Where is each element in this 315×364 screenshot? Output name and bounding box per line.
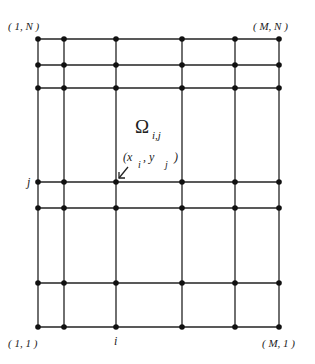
point-label-sub-i: i: [138, 159, 141, 170]
grid-node: [276, 36, 282, 42]
corner-label-top-right: ( M, N ): [253, 20, 288, 33]
point-label-x: (x: [123, 150, 133, 164]
grid-node: [35, 205, 41, 211]
grid-nodes: [35, 36, 282, 330]
grid-node: [35, 280, 41, 286]
grid-node: [35, 36, 41, 42]
grid-diagram: ( 1, N ) ( M, N ) ( 1, 1 ) ( M, 1 ) j i …: [0, 0, 315, 364]
grid-node: [276, 85, 282, 91]
grid-node: [113, 36, 119, 42]
point-label-close: ): [173, 150, 178, 164]
grid-node: [179, 62, 185, 68]
grid-node: [232, 324, 238, 330]
grid-node: [276, 62, 282, 68]
grid-node: [113, 280, 119, 286]
corner-label-bottom-right: ( M, 1 ): [262, 337, 295, 350]
grid-node: [113, 205, 119, 211]
grid-node: [61, 179, 67, 185]
grid-node: [276, 205, 282, 211]
grid-node: [61, 205, 67, 211]
grid-node: [276, 179, 282, 185]
grid-node: [232, 62, 238, 68]
row-label-j: j: [25, 175, 31, 189]
point-label-sub-j: j: [163, 159, 168, 170]
grid-node: [232, 36, 238, 42]
grid-node: [179, 179, 185, 185]
grid-lines: [38, 39, 279, 327]
grid-node: [61, 62, 67, 68]
grid-node: [232, 179, 238, 185]
grid-node: [61, 280, 67, 286]
grid-node: [232, 85, 238, 91]
grid-node: [113, 179, 119, 185]
grid-node: [113, 85, 119, 91]
point-label-y: , y: [143, 150, 155, 164]
grid-node: [35, 324, 41, 330]
pointer-arrow-icon: [119, 167, 128, 178]
grid-node: [61, 324, 67, 330]
grid-node: [61, 85, 67, 91]
grid-node: [179, 280, 185, 286]
grid-node: [179, 36, 185, 42]
grid-node: [35, 85, 41, 91]
column-label-i: i: [114, 334, 117, 348]
grid-node: [35, 62, 41, 68]
grid-node: [113, 324, 119, 330]
grid-node: [179, 324, 185, 330]
corner-label-top-left: ( 1, N ): [8, 20, 40, 33]
grid-node: [35, 179, 41, 185]
grid-node: [179, 205, 185, 211]
cell-omega-subscript: i,j: [152, 129, 161, 141]
corner-label-bottom-left: ( 1, 1 ): [8, 337, 38, 350]
grid-node: [179, 85, 185, 91]
grid-node: [276, 324, 282, 330]
cell-omega-symbol: Ω: [135, 116, 149, 137]
grid-node: [232, 280, 238, 286]
grid-node: [61, 36, 67, 42]
grid-node: [113, 62, 119, 68]
grid-node: [276, 280, 282, 286]
grid-node: [232, 205, 238, 211]
